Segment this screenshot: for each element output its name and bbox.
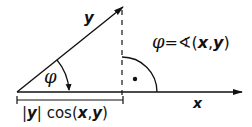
x-vector-label: x	[193, 96, 202, 110]
angle-sign-icon: ∢	[178, 33, 191, 52]
projection-length-label: |y| cos(x,y)	[22, 106, 108, 121]
angle-definition-y: y	[213, 33, 223, 52]
cos-close-paren: )	[102, 104, 108, 122]
cos-arg-y: y	[92, 104, 102, 122]
angle-definition-x: x	[198, 33, 208, 52]
right-angle-arc	[122, 57, 157, 92]
vector-projection-diagram: y φ x φ=∢(x,y) |y| cos(x,y)	[0, 0, 252, 127]
angle-definition-equals: =	[165, 33, 178, 52]
angle-definition-close-paren: )	[224, 33, 230, 52]
y-vector-label: y	[84, 11, 94, 26]
angle-phi-arc	[57, 60, 69, 90]
y-vector	[17, 7, 123, 92]
angle-definition-phi: φ	[152, 31, 165, 52]
angle-definition: φ=∢(x,y)	[152, 33, 230, 51]
angle-phi-label: φ	[44, 68, 57, 86]
right-angle-dot-icon	[133, 77, 137, 81]
norm-y: y	[27, 104, 37, 122]
cos-function: cos	[42, 104, 72, 122]
